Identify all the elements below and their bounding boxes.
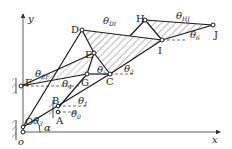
angle-theta-HJ: θHJ [176, 10, 190, 23]
label-J: J [213, 29, 218, 40]
label-D: D [71, 24, 79, 35]
x-axis-label: x [212, 134, 218, 145]
angle-theta-DI: θDI [103, 15, 117, 27]
joint-o [21, 130, 25, 134]
angle-theta-0: θ0 [71, 108, 81, 120]
label-O: O [25, 116, 33, 127]
y-axis-label: y [27, 13, 34, 24]
angle-theta-2: θ2 [124, 63, 134, 75]
label-G: G [81, 77, 89, 88]
joint-A [56, 110, 60, 114]
joint-J [211, 23, 215, 27]
label-F: F [25, 77, 32, 88]
label-I: I [158, 45, 162, 56]
angle-theta-3: θ3 [33, 115, 43, 127]
label-B: B [52, 95, 59, 106]
linkage-diagram: y x o [0, 0, 232, 149]
joint-E [92, 51, 96, 55]
angle-alpha: α [44, 122, 51, 133]
angle-theta-EF: θEF [35, 68, 50, 80]
joint-F [19, 84, 23, 88]
angle-theta-6: θ6 [190, 29, 200, 41]
label-C: C [106, 76, 114, 87]
label-A: A [55, 115, 64, 126]
angle-theta-1: θ1 [78, 95, 88, 107]
joint-I [160, 38, 164, 42]
shaded-links [21, 20, 213, 86]
joint-G [85, 72, 89, 76]
angle-theta-4: θ4 [62, 78, 72, 90]
joint-D [80, 28, 84, 32]
label-E: E [85, 49, 92, 60]
origin-label: o [18, 136, 24, 147]
label-H: H [136, 13, 145, 24]
